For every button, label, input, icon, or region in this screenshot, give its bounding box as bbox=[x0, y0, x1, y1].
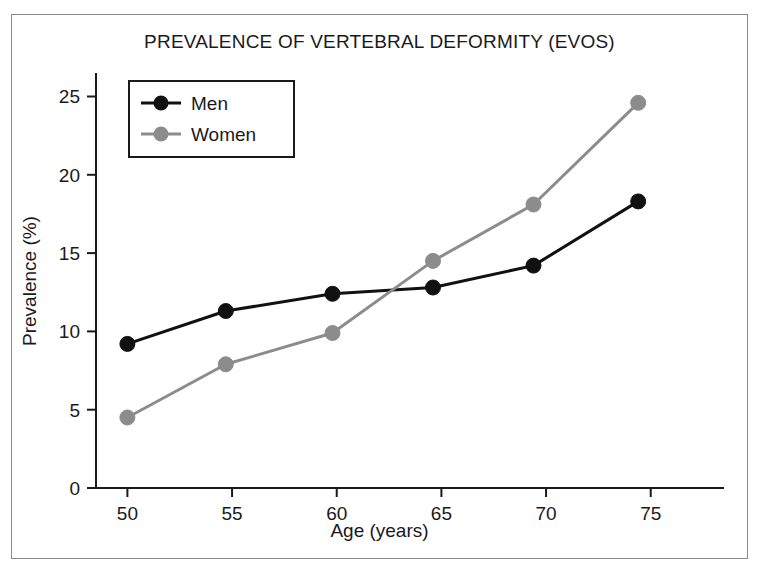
series-line-men bbox=[127, 201, 638, 344]
legend-label-men: Men bbox=[191, 93, 228, 114]
data-point-women bbox=[526, 197, 541, 212]
y-tick-label: 20 bbox=[59, 165, 80, 186]
x-axis-label: Age (years) bbox=[12, 520, 747, 542]
legend-label-women: Women bbox=[191, 124, 256, 145]
y-tick-label: 15 bbox=[59, 243, 80, 264]
data-point-women bbox=[218, 357, 233, 372]
data-point-women bbox=[120, 410, 135, 425]
data-point-men bbox=[631, 194, 646, 209]
chart-legend: MenWomen bbox=[129, 81, 294, 157]
y-tick-label: 0 bbox=[69, 478, 80, 499]
y-tick-label: 10 bbox=[59, 321, 80, 342]
data-point-men bbox=[526, 258, 541, 273]
y-axis-label: Prevalence (%) bbox=[19, 91, 41, 471]
data-point-men bbox=[120, 336, 135, 351]
data-point-women bbox=[631, 95, 646, 110]
legend-marker-women bbox=[154, 127, 169, 142]
data-point-men bbox=[426, 280, 441, 295]
data-point-men bbox=[325, 286, 340, 301]
data-point-women bbox=[325, 326, 340, 341]
y-tick-label: 25 bbox=[59, 86, 80, 107]
legend-marker-men bbox=[154, 96, 169, 111]
y-tick-label: 5 bbox=[69, 400, 80, 421]
data-point-women bbox=[426, 253, 441, 268]
chart-plot-area: 5055606570750510152025 MenWomen bbox=[12, 15, 749, 560]
chart-figure: PREVALENCE OF VERTEBRAL DEFORMITY (EVOS)… bbox=[11, 14, 748, 559]
data-point-men bbox=[218, 304, 233, 319]
